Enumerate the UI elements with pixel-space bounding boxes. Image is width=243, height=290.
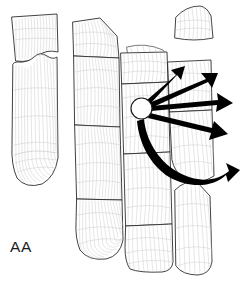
panel-center-foot [76, 199, 123, 259]
panel-center-lower [75, 125, 122, 200]
panel-bottom-right [175, 182, 212, 275]
impact-origin-circle [131, 98, 152, 119]
rock-panel-illustration: AA [0, 0, 243, 290]
figure-root: AA [0, 0, 243, 290]
panel-center-middle [74, 56, 120, 127]
panel-left-lower [12, 54, 58, 186]
figure-label: AA [10, 238, 32, 255]
panel-main-foot [125, 224, 173, 272]
panel-main-upper [121, 52, 168, 84]
